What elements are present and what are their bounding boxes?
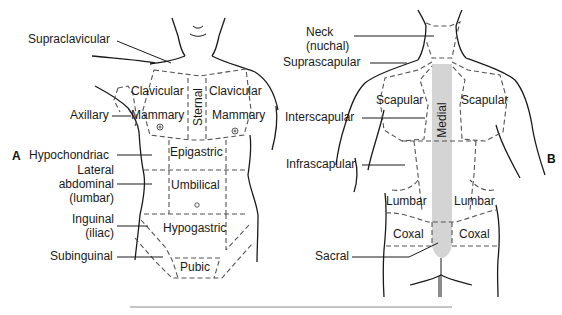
region-clavicular-left: Clavicular <box>131 85 184 98</box>
region-pubic: Pubic <box>180 261 210 274</box>
panel-label-a: A <box>12 149 21 163</box>
label-infrascapular: Infrascapular <box>286 158 355 171</box>
region-mammary-right: Mammary <box>212 109 265 122</box>
label-hypochondriac: Hypochondriac <box>29 149 109 162</box>
label-sacral: Sacral <box>315 250 349 263</box>
region-scapular-left: Scapular <box>376 94 423 107</box>
label-lateral-abdominal-1: Lateral <box>46 164 114 177</box>
label-suprascapular: Suprascapular <box>283 56 360 69</box>
region-medial: Medial <box>435 100 449 140</box>
region-clavicular-right: Clavicular <box>209 85 262 98</box>
region-umbilical: Umbilical <box>171 179 220 192</box>
region-mammary-left: Mammary <box>131 109 184 122</box>
medial-band <box>432 64 452 258</box>
region-sternal: Sternal <box>191 87 205 127</box>
label-lateral-abdominal-2: abdominal <box>46 178 114 191</box>
region-scapular-right: Scapular <box>461 94 508 107</box>
region-epigastric: Epigastric <box>170 146 223 159</box>
region-hypogastric: Hypogastric <box>163 222 226 235</box>
region-lumbar-right: Lumbar <box>454 195 495 208</box>
anatomical-regions-diagram: A Supraclavicular Axillary Hypochondriac… <box>0 0 562 315</box>
label-neck-1: Neck <box>306 26 333 39</box>
label-inguinal-2: (iliac) <box>46 227 114 240</box>
label-subinguinal: Subinguinal <box>50 250 113 263</box>
panel-label-b: B <box>547 152 556 166</box>
anterior-region-boundaries <box>114 69 252 278</box>
label-lateral-abdominal-3: (lumbar) <box>46 192 114 205</box>
label-axillary: Axillary <box>70 109 109 122</box>
label-neck-2: (nuchal) <box>306 40 349 53</box>
region-lumbar-left: Lumbar <box>386 195 427 208</box>
posterior-leader-lines <box>352 36 438 257</box>
label-interscapular: Interscapular <box>285 111 354 124</box>
region-coxal-right: Coxal <box>459 228 490 241</box>
label-inguinal-1: Inguinal <box>46 213 114 226</box>
region-coxal-left: Coxal <box>393 228 424 241</box>
label-supraclavicular: Supraclavicular <box>28 33 110 46</box>
